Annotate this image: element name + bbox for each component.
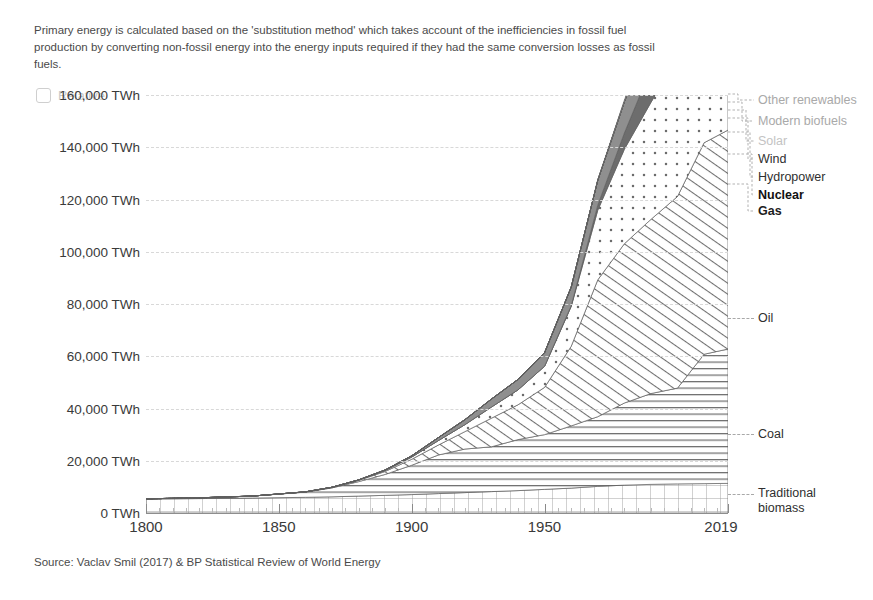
legend-item-other-renewables[interactable]: Other renewables [758, 93, 857, 107]
y-tick-label: 80,000 TWh [67, 297, 140, 312]
x-tick [704, 508, 705, 513]
legend-item-gas[interactable]: Gas [758, 204, 782, 218]
oil-callout-line [728, 318, 754, 319]
x-tick [478, 508, 479, 513]
x-tick [146, 504, 147, 513]
legend-item-solar[interactable]: Solar [758, 134, 787, 148]
x-tick [159, 508, 160, 513]
x-tick [372, 508, 373, 513]
x-tick [518, 508, 519, 513]
x-axis-ticks [146, 500, 728, 513]
x-tick [664, 508, 665, 513]
gridline [146, 461, 728, 462]
x-tick [385, 508, 386, 513]
primary-energy-stacked-area-chart: 160,000 TWh 140,000 TWh 120,000 TWh 100,… [0, 0, 873, 600]
gridline [146, 147, 728, 148]
x-tick [266, 508, 267, 513]
x-tick [173, 508, 174, 513]
x-tick [239, 508, 240, 513]
callout-label-oil[interactable]: Oil [758, 311, 773, 325]
legend-connectors [728, 88, 760, 218]
x-tick [571, 508, 572, 513]
legend-item-nuclear[interactable]: Nuclear [758, 188, 804, 202]
y-tick-label: 40,000 TWh [67, 401, 140, 416]
x-tick-label: 1900 [395, 518, 428, 535]
x-tick [305, 508, 306, 513]
x-tick [186, 508, 187, 513]
x-tick [359, 508, 360, 513]
y-tick-label: 140,000 TWh [59, 140, 140, 155]
x-tick [651, 508, 652, 513]
plot-area [146, 95, 728, 513]
x-tick [545, 504, 546, 513]
x-tick [398, 508, 399, 513]
biomass-callout-line [728, 494, 754, 495]
x-tick [319, 508, 320, 513]
x-tick [452, 508, 453, 513]
x-tick [199, 508, 200, 513]
legend-item-modern-biofuels[interactable]: Modern biofuels [758, 114, 847, 128]
x-tick [558, 508, 559, 513]
x-tick [728, 504, 729, 513]
x-tick [624, 508, 625, 513]
y-tick-label: 20,000 TWh [67, 453, 140, 468]
y-axis: 160,000 TWh 140,000 TWh 120,000 TWh 100,… [0, 95, 140, 513]
x-tick-label: 2019 [704, 518, 737, 535]
gridline [146, 409, 728, 410]
x-tick [505, 508, 506, 513]
x-tick [438, 508, 439, 513]
x-tick [717, 508, 718, 513]
gridline [146, 95, 728, 96]
source-line: Source: Vaclav Smil (2017) & BP Statisti… [34, 556, 380, 568]
x-tick [491, 508, 492, 513]
chart-legend: Other renewables Modern biofuels Solar W… [728, 88, 873, 218]
x-tick [332, 508, 333, 513]
x-tick-label: 1850 [262, 518, 295, 535]
x-tick [638, 508, 639, 513]
x-tick [584, 508, 585, 513]
legend-item-wind[interactable]: Wind [758, 152, 786, 166]
x-tick [212, 508, 213, 513]
x-tick [226, 508, 227, 513]
gridline [146, 304, 728, 305]
x-axis-line [146, 513, 728, 514]
callout-label-traditional-biomass[interactable]: Traditional biomass [758, 486, 828, 516]
x-tick [465, 508, 466, 513]
x-tick-label: 1950 [528, 518, 561, 535]
y-tick-label: 120,000 TWh [59, 192, 140, 207]
x-tick [412, 504, 413, 513]
gridline [146, 356, 728, 357]
x-tick [691, 508, 692, 513]
x-tick [531, 508, 532, 513]
gridline [146, 252, 728, 253]
y-tick-label: 100,000 TWh [59, 244, 140, 259]
callout-label-coal[interactable]: Coal [758, 427, 784, 441]
y-tick-label: 60,000 TWh [67, 349, 140, 364]
x-tick-label: 1800 [129, 518, 162, 535]
gridline [146, 200, 728, 201]
x-tick [425, 508, 426, 513]
x-tick [252, 508, 253, 513]
coal-callout-line [728, 434, 754, 435]
x-tick [678, 508, 679, 513]
x-tick [279, 504, 280, 513]
x-tick [598, 508, 599, 513]
legend-item-hydropower[interactable]: Hydropower [758, 170, 825, 184]
x-tick [292, 508, 293, 513]
x-tick [611, 508, 612, 513]
x-tick [345, 508, 346, 513]
y-tick-label: 160,000 TWh [59, 88, 140, 103]
